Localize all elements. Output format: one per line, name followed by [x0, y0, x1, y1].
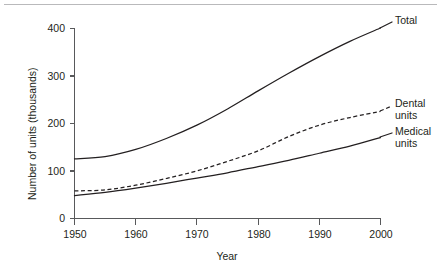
series-label-total: Total: [395, 15, 417, 27]
series-label-medical: Medical units: [395, 126, 431, 149]
y-axis-title: Number of units (thousands): [26, 68, 38, 200]
x-tick-label-1960: 1960: [124, 229, 147, 240]
x-tick-label-1980: 1980: [247, 229, 270, 240]
series-label-dental: Dental units: [395, 98, 425, 121]
y-tick-label-300: 300: [40, 71, 65, 82]
series-line-medical: [75, 138, 381, 196]
y-tick-label-400: 400: [40, 23, 65, 34]
x-tick-label-1970: 1970: [185, 229, 208, 240]
leader-dental: [380, 106, 392, 111]
series-line-total: [75, 28, 381, 159]
series-label-dental-line2: units: [395, 109, 417, 121]
x-tick-label-1950: 1950: [63, 229, 86, 240]
y-tick-label-200: 200: [40, 118, 65, 129]
series-label-dental-line1: Dental: [395, 97, 425, 109]
series-label-medical-line1: Medical: [395, 125, 431, 137]
series-label-medical-line2: units: [395, 137, 417, 149]
y-tick-label-0: 0: [40, 213, 65, 224]
x-axis-title: Year: [216, 250, 237, 262]
series-line-dental: [75, 111, 381, 191]
leader-total: [380, 22, 392, 28]
leader-medical: [380, 133, 392, 137]
x-tick-label-1990: 1990: [308, 229, 331, 240]
chart-figure: 400 300 200 100 0 1950 1960 1970 1980 19…: [0, 0, 441, 275]
y-tick-label-100: 100: [40, 166, 65, 177]
x-tick-label-2000: 2000: [369, 229, 392, 240]
